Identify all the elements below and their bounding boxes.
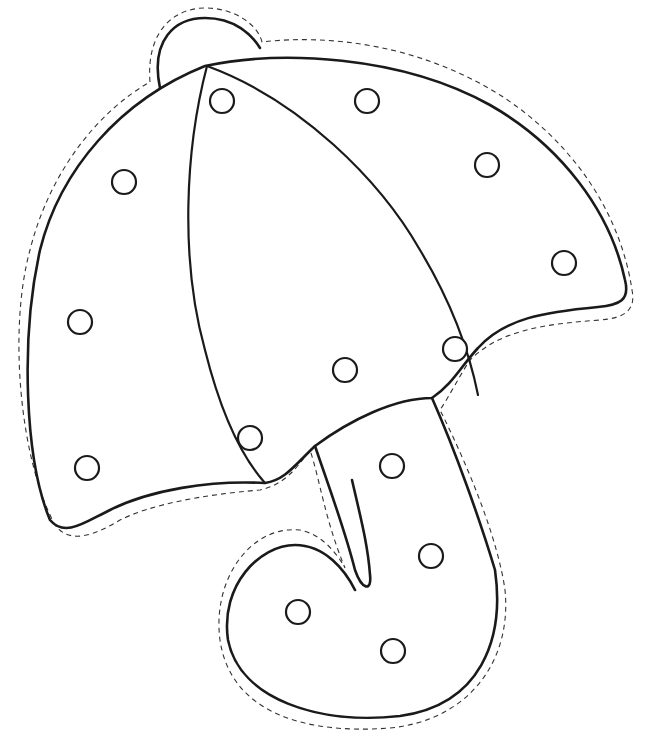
- lacing-hole: [443, 337, 467, 361]
- lacing-hole: [112, 170, 136, 194]
- cut-line: [19, 8, 633, 729]
- lacing-hole: [333, 358, 357, 382]
- lacing-hole: [475, 153, 499, 177]
- lacing-hole: [381, 639, 405, 663]
- lacing-hole: [355, 89, 379, 113]
- panel-line-right: [207, 66, 478, 395]
- lacing-hole: [68, 310, 92, 334]
- canopy-outline: [28, 58, 627, 528]
- lacing-hole: [286, 600, 310, 624]
- umbrella-knob: [158, 18, 260, 88]
- umbrella-lacing-card: [0, 0, 651, 752]
- panel-line-left: [188, 66, 265, 483]
- lacing-hole: [238, 426, 262, 450]
- lacing-hole: [210, 89, 234, 113]
- lacing-hole: [419, 544, 443, 568]
- lacing-hole: [380, 454, 404, 478]
- lacing-hole: [552, 251, 576, 275]
- lacing-hole: [75, 456, 99, 480]
- umbrella-drawing: [0, 0, 651, 752]
